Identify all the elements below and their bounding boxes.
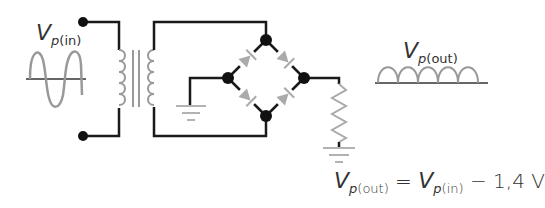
load-resistor-icon (332, 84, 346, 147)
input-voltage-label: Vp(in) (36, 20, 81, 45)
diode-bridge (222, 34, 310, 122)
terminal-bottom (78, 131, 88, 141)
transformer-icon (119, 50, 154, 107)
input-sine-wave-icon (26, 52, 86, 107)
output-voltage-label: Vp(out) (403, 38, 458, 63)
output-rectified-wave-icon (375, 67, 488, 83)
ground-icon (323, 148, 355, 162)
primary-circuit (83, 22, 119, 136)
output-voltage-equation: Vp(out) = Vp(in) − 1,4 V (334, 168, 545, 193)
ground-icon (176, 106, 206, 120)
secondary-circuit (154, 22, 339, 136)
